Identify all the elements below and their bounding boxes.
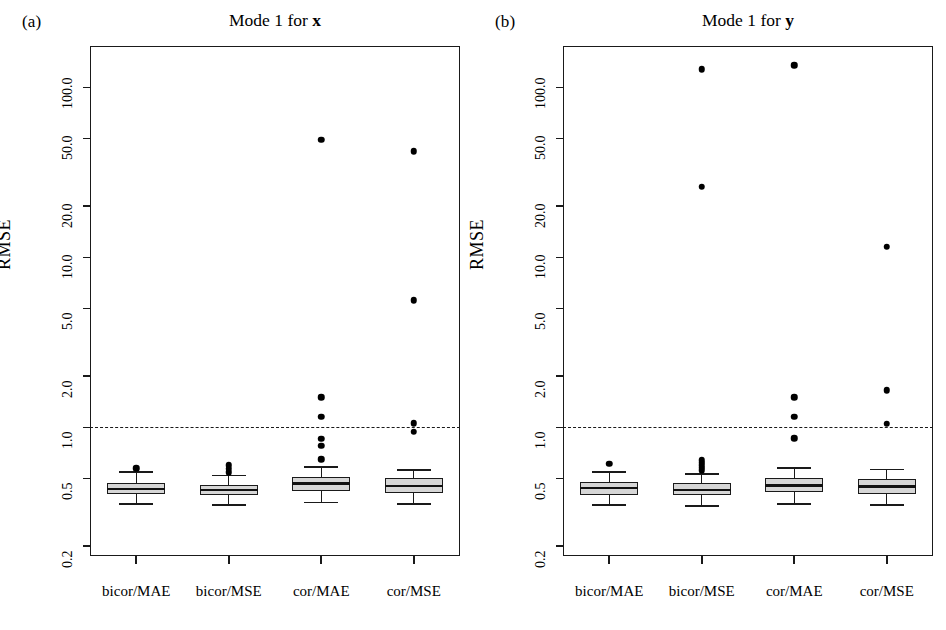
x-tick-label-bicor-mae: bicor/MAE xyxy=(102,583,170,600)
whisker-cap-lower xyxy=(119,503,153,505)
panel-a: (a) Mode 1 for x RMSE 0.20.51.02.05.010.… xyxy=(0,0,473,630)
outlier-point xyxy=(133,465,140,472)
reference-line xyxy=(563,427,933,428)
x-tick-mark xyxy=(793,556,795,564)
median-line xyxy=(580,487,638,489)
y-tick-mark xyxy=(556,427,563,429)
y-tick-label: 0.5 xyxy=(533,483,549,501)
outlier-point xyxy=(884,387,891,394)
median-line xyxy=(200,489,258,491)
x-tick-label-bicor-mse: bicor/MSE xyxy=(196,583,262,600)
y-tick-mark xyxy=(83,478,90,480)
median-line xyxy=(673,489,731,491)
y-tick-label: 50.0 xyxy=(60,136,76,161)
median-line xyxy=(107,488,165,490)
outlier-point xyxy=(318,436,325,443)
panel-title-b-variable: y xyxy=(785,10,794,30)
median-line xyxy=(292,482,350,484)
whisker-cap-lower xyxy=(685,505,719,507)
y-tick-mark xyxy=(556,205,563,207)
x-tick-label-cor-mae: cor/MAE xyxy=(766,583,823,600)
y-tick-mark xyxy=(83,138,90,140)
panel-tag-b: (b) xyxy=(495,12,515,32)
x-tick-mark xyxy=(608,556,610,564)
outlier-point xyxy=(884,420,891,427)
outlier-point xyxy=(318,137,325,144)
y-axis-title-a: RMSE xyxy=(0,219,15,270)
y-tick-label: 0.2 xyxy=(533,551,549,569)
y-tick-mark xyxy=(556,545,563,547)
whisker-cap-upper xyxy=(304,466,338,468)
x-tick-mark xyxy=(886,556,888,564)
y-tick-label: 2.0 xyxy=(533,381,549,399)
whisker-upper xyxy=(794,468,795,478)
panel-title-a-variable: x xyxy=(312,10,321,30)
y-tick-label: 1.0 xyxy=(533,432,549,450)
panel-title-b: Mode 1 for y xyxy=(563,10,933,31)
x-tick-mark xyxy=(135,556,137,564)
panel-tag-a: (a) xyxy=(22,12,41,32)
y-tick-mark xyxy=(83,257,90,259)
whisker-upper xyxy=(413,470,414,478)
y-tick-mark xyxy=(556,478,563,480)
panel-b: (b) Mode 1 for y RMSE 0.20.51.02.05.010.… xyxy=(473,0,946,630)
y-axis-title-b: RMSE xyxy=(467,219,488,270)
y-tick-label: 0.2 xyxy=(60,551,76,569)
y-tick-label: 0.5 xyxy=(60,483,76,501)
whisker-upper xyxy=(701,474,702,483)
y-tick-label: 20.0 xyxy=(533,204,549,229)
outlier-point xyxy=(699,457,706,464)
reference-line xyxy=(90,427,460,428)
outlier-point xyxy=(699,184,706,191)
x-tick-mark xyxy=(320,556,322,564)
panel-title-b-prefix: Mode 1 for xyxy=(702,10,785,30)
whisker-cap-lower xyxy=(870,504,904,506)
whisker-cap-lower xyxy=(304,502,338,504)
outlier-point xyxy=(318,442,325,449)
panel-title-a: Mode 1 for x xyxy=(90,10,460,31)
whisker-cap-lower xyxy=(212,504,246,506)
y-tick-mark xyxy=(556,308,563,310)
y-tick-mark xyxy=(83,308,90,310)
outlier-point xyxy=(791,62,798,69)
y-tick-mark xyxy=(556,375,563,377)
whisker-cap-upper xyxy=(119,471,153,473)
whisker-cap-upper xyxy=(397,469,431,471)
y-tick-label: 100.0 xyxy=(533,78,549,110)
outlier-point xyxy=(884,244,891,251)
whisker-cap-lower xyxy=(397,503,431,505)
whisker-upper xyxy=(321,467,322,477)
outlier-point xyxy=(318,456,325,463)
y-tick-label: 50.0 xyxy=(533,136,549,161)
x-tick-label-bicor-mse: bicor/MSE xyxy=(669,583,735,600)
y-tick-label: 20.0 xyxy=(60,204,76,229)
whisker-cap-upper xyxy=(592,471,626,473)
whisker-cap-upper xyxy=(777,467,811,469)
median-line xyxy=(858,485,916,487)
whisker-cap-upper xyxy=(685,473,719,475)
outlier-point xyxy=(226,462,233,469)
y-tick-mark xyxy=(83,205,90,207)
y-tick-label: 5.0 xyxy=(60,313,76,331)
x-tick-label-cor-mse: cor/MSE xyxy=(387,583,441,600)
outlier-point xyxy=(606,461,613,468)
whisker-cap-upper xyxy=(870,469,904,471)
y-tick-mark xyxy=(556,257,563,259)
outlier-point xyxy=(411,429,418,436)
x-tick-mark xyxy=(701,556,703,564)
whisker-cap-lower xyxy=(777,503,811,505)
x-tick-mark xyxy=(228,556,230,564)
x-tick-label-cor-mae: cor/MAE xyxy=(293,583,350,600)
whisker-upper xyxy=(228,476,229,485)
median-line xyxy=(765,484,823,486)
whisker-cap-lower xyxy=(592,504,626,506)
y-tick-mark xyxy=(83,427,90,429)
panel-title-a-prefix: Mode 1 for xyxy=(229,10,312,30)
y-tick-label: 100.0 xyxy=(60,78,76,110)
outlier-point xyxy=(791,414,798,421)
y-tick-label: 5.0 xyxy=(533,313,549,331)
y-tick-mark xyxy=(556,138,563,140)
x-tick-mark xyxy=(413,556,415,564)
outlier-point xyxy=(318,394,325,401)
outlier-point xyxy=(699,66,706,73)
